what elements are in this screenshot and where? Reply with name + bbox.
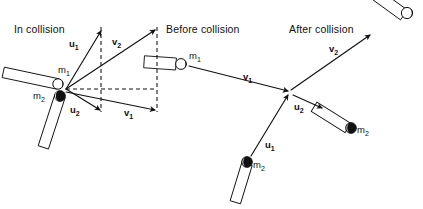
collision-diagram-figure: In collision Before collision After coll… (0, 0, 423, 209)
ball-sphere (55, 91, 66, 102)
rod-m1-before-collision (144, 56, 177, 70)
rod-body (144, 56, 177, 70)
label-u2: u2 (70, 104, 80, 117)
label-u2-after: u2 (294, 101, 304, 114)
ball-m1-before-collision (176, 59, 187, 70)
label-m2-before: m2 (253, 159, 265, 172)
label-u1-before: u1 (265, 139, 275, 152)
vector-v1-before (189, 66, 288, 91)
label-m2: m2 (33, 90, 45, 103)
left-vectors (66, 30, 155, 110)
rod-m2-after-collision (311, 102, 351, 132)
label-v1: v1 (124, 107, 133, 120)
rod-m1-in-collision (2, 67, 59, 89)
rod-body (2, 67, 59, 89)
middle-panel-group: m1 v1 m2 u1 (144, 50, 288, 204)
panel-title-after-collision: After collision (289, 23, 354, 35)
ball-m1-after-collision (401, 7, 412, 18)
left-panel-group: m1 m2 u1 v2 u2 v1 (2, 27, 157, 149)
ball-m2-before-collision (242, 157, 253, 168)
vector-v2 (66, 30, 155, 89)
panel-title-before-collision: Before collision (166, 23, 240, 35)
ball-m1-in-collision (53, 79, 64, 89)
label-v2: v2 (112, 36, 121, 49)
ball-m2-after-collision (346, 123, 357, 134)
ball-m2-in-collision (55, 91, 66, 102)
label-m1: m1 (58, 64, 70, 77)
collision-diagram-svg: In collision Before collision After coll… (0, 0, 423, 209)
rod-body (366, 0, 407, 20)
ball-sphere (346, 123, 357, 134)
rod-m2-before-collision (230, 162, 252, 203)
label-u1: u1 (69, 38, 79, 51)
vector-v1 (66, 92, 155, 110)
rod-body (311, 102, 351, 132)
label-m1-before: m1 (189, 50, 201, 63)
panel-title-in-collision: In collision (14, 23, 65, 35)
label-v1-before: v1 (243, 71, 252, 84)
rod-v2-after-collision (366, 0, 407, 20)
label-v2-after: v2 (329, 43, 338, 56)
ball-sphere (242, 157, 253, 168)
label-m2-after: m2 (357, 124, 369, 137)
rod-body (230, 162, 252, 203)
panel-titles: In collision Before collision After coll… (14, 23, 354, 35)
right-panel-group: v2 u2 m2 (291, 0, 413, 137)
